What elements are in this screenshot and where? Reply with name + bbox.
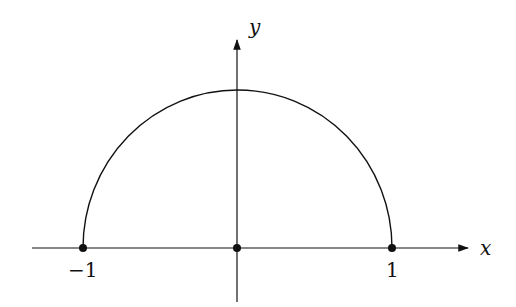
y-axis-label: y [248, 15, 261, 39]
x-axis-label: x [480, 236, 491, 260]
tick-label-one: 1 [386, 258, 399, 282]
point-origin [233, 244, 241, 252]
point-right-endpoint [388, 244, 396, 252]
semicircle-diagram: y x −1 1 [0, 0, 516, 307]
point-left-endpoint [79, 244, 87, 252]
tick-label-minus-one: −1 [68, 258, 97, 282]
